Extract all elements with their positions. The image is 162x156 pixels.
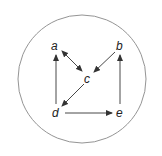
edge-a-c [62,51,82,71]
node-c: c [84,72,90,86]
graph-diagram: a b c d e [0,0,162,156]
node-b: b [116,39,123,53]
edge-c-d [62,84,84,106]
node-a: a [51,39,58,53]
node-d: d [52,106,59,120]
boundary-circle [18,15,146,143]
node-e: e [116,106,123,120]
edge-b-c [94,52,115,72]
